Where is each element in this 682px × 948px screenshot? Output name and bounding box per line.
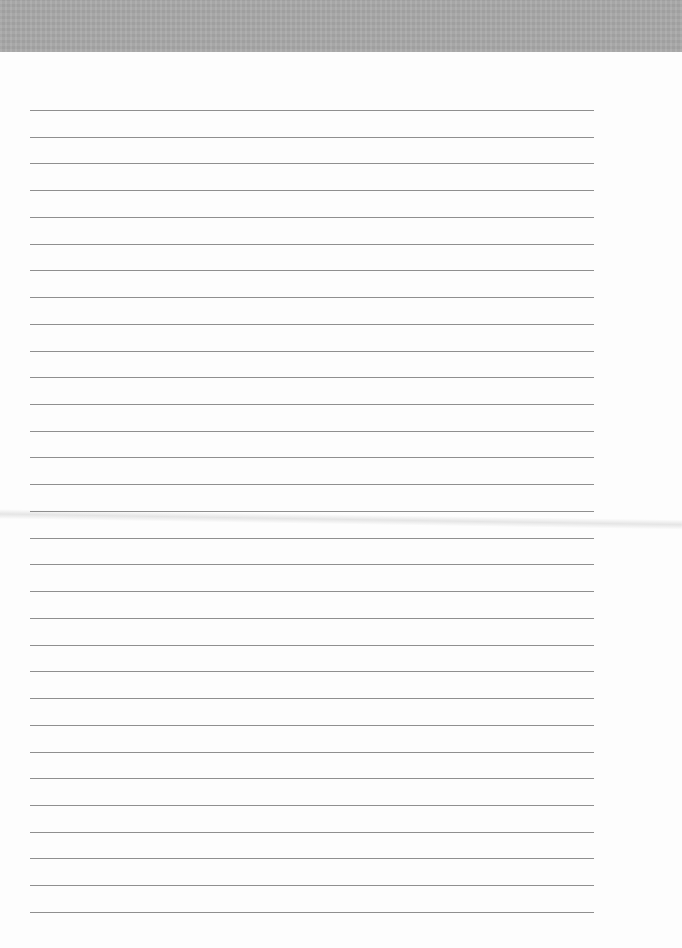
- ruled-line: [30, 832, 594, 833]
- ruled-line: [30, 858, 594, 859]
- ruled-line: [30, 297, 594, 298]
- ruled-line: [30, 457, 594, 458]
- ruled-line: [30, 564, 594, 565]
- ruled-line: [30, 645, 594, 646]
- ruled-line: [30, 110, 594, 111]
- ruled-line: [30, 538, 594, 539]
- ruled-lines: [0, 0, 682, 948]
- ruled-line: [30, 377, 594, 378]
- ruled-line: [30, 805, 594, 806]
- ruled-line: [30, 912, 594, 913]
- ruled-line: [30, 698, 594, 699]
- ruled-line: [30, 618, 594, 619]
- ruled-line: [30, 351, 594, 352]
- ruled-line: [30, 752, 594, 753]
- ruled-line: [30, 217, 594, 218]
- ruled-line: [30, 591, 594, 592]
- ruled-line: [30, 778, 594, 779]
- ruled-line: [30, 885, 594, 886]
- ruled-line: [30, 137, 594, 138]
- ruled-line: [30, 404, 594, 405]
- ruled-line: [30, 671, 594, 672]
- ruled-line: [30, 190, 594, 191]
- ruled-line: [30, 270, 594, 271]
- ruled-line: [30, 324, 594, 325]
- ruled-line: [30, 431, 594, 432]
- ruled-line: [30, 725, 594, 726]
- ruled-line: [30, 163, 594, 164]
- ruled-line: [30, 244, 594, 245]
- ruled-line: [30, 484, 594, 485]
